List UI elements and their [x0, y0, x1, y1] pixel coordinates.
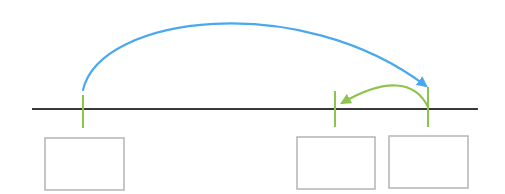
jump-arcs: [83, 23, 428, 107]
box-middle: [297, 137, 375, 189]
green-jump-back-arrow: [342, 85, 428, 107]
box-left: [45, 138, 124, 190]
tick-marks: [83, 87, 428, 128]
number-line-diagram: [0, 0, 505, 194]
box-right: [389, 136, 468, 188]
blue-jump-arrow: [83, 23, 426, 90]
answer-boxes: [45, 136, 468, 190]
